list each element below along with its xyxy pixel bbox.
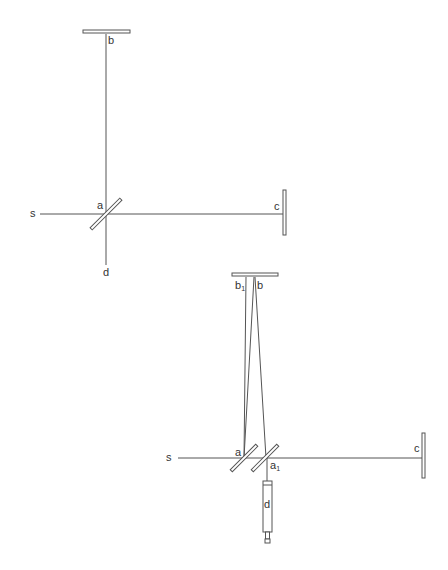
upper-label-mirror-c: c [274,201,280,212]
lower-label-mirror-b: b [257,280,263,291]
lower-mirror-b [232,273,278,276]
lower-label-mirror-c: c [414,443,420,454]
upper-label-mirror-b: b [108,35,114,46]
lower-label-source: s [166,452,172,463]
compensator-subscript: 1 [276,465,280,472]
lower-telescope-eyepiece [266,532,270,539]
lower-beam-b-to-a1 [255,277,266,458]
upper-diagram [40,30,286,265]
lower-label-beamsplitter: a [235,447,241,458]
lower-mirror-c [422,433,425,478]
lower-label-mirror-b1: b1 [235,280,245,292]
lower-diagram [178,273,425,543]
lower-label-compensator: a1 [270,460,280,472]
upper-label-beamsplitter: a [97,200,103,211]
lower-telescope-eyepiece-end [265,539,270,543]
mirror-b1-subscript: 1 [241,285,245,292]
interferometer-diagrams [0,0,448,570]
upper-label-source: s [30,208,36,219]
upper-mirror-b [83,30,130,33]
upper-mirror-c [283,190,286,235]
upper-label-detector: d [103,267,109,278]
lower-label-telescope: d [264,499,270,510]
